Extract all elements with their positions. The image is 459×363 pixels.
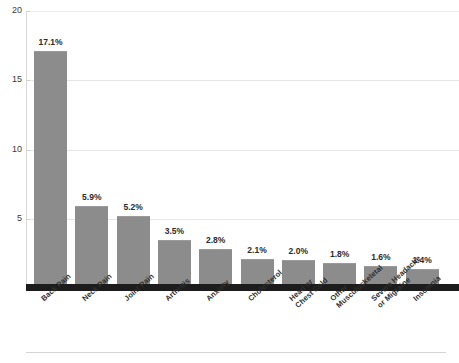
y-tick-mark-10: [26, 150, 30, 151]
bar: [34, 51, 67, 288]
gridline-10: [26, 150, 459, 151]
bar-value-label: 2.8%: [191, 236, 240, 245]
gridline-15: [26, 80, 459, 81]
y-tick-mark-5: [26, 219, 30, 220]
footer-divider: [26, 352, 446, 353]
bar-chart: 20 15 10 5 17.1%5.9%5.2%3.5%2.8%2.1%2.0%…: [0, 0, 459, 363]
gridline-20: [26, 11, 459, 12]
y-tick-mark-15: [26, 80, 30, 81]
bar-value-label: 5.2%: [109, 203, 158, 212]
bar-value-label: 5.9%: [67, 193, 116, 202]
y-axis-label-5: 5: [0, 214, 22, 223]
y-axis-label-10: 10: [0, 145, 22, 154]
y-axis-label-15: 15: [0, 75, 22, 84]
y-axis-label-20: 20: [0, 6, 22, 15]
y-tick-mark-20: [26, 11, 30, 12]
bar-value-label: 3.5%: [150, 227, 199, 236]
bar-value-label: 17.1%: [26, 38, 75, 47]
